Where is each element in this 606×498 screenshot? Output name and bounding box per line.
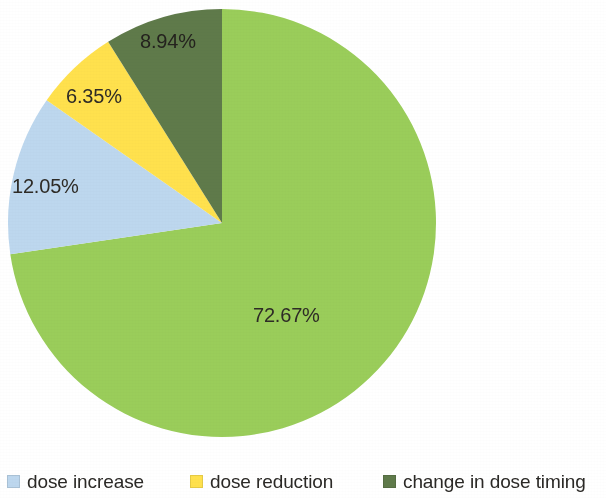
legend-swatch-icon-change-in-dose-timing	[383, 475, 396, 488]
legend-item-change-in-dose-timing[interactable]: change in dose timing	[383, 468, 586, 494]
chart-legend: dose increase dose reduction change in d…	[0, 464, 606, 498]
pie-label-dose-increase: 12.05%	[12, 176, 79, 196]
legend-swatch-icon-dose-reduction	[190, 475, 203, 488]
pie-label-change-in-dose-timing: 8.94%	[140, 31, 196, 51]
legend-item-dose-increase[interactable]: dose increase	[7, 468, 144, 494]
pie-slices	[8, 9, 436, 437]
pie-chart-figure: 72.67% 12.05% 6.35% 8.94% dose increase …	[0, 0, 606, 498]
legend-swatch-icon-dose-increase	[7, 475, 20, 488]
legend-item-dose-reduction[interactable]: dose reduction	[190, 468, 333, 494]
pie-svg	[0, 0, 606, 452]
pie-label-no-change: 72.67%	[253, 305, 320, 325]
legend-label-change-in-dose-timing: change in dose timing	[403, 472, 586, 491]
pie-plot-area: 72.67% 12.05% 6.35% 8.94%	[0, 0, 606, 452]
pie-label-dose-reduction: 6.35%	[66, 86, 122, 106]
legend-label-dose-increase: dose increase	[27, 472, 144, 491]
legend-label-dose-reduction: dose reduction	[210, 472, 333, 491]
